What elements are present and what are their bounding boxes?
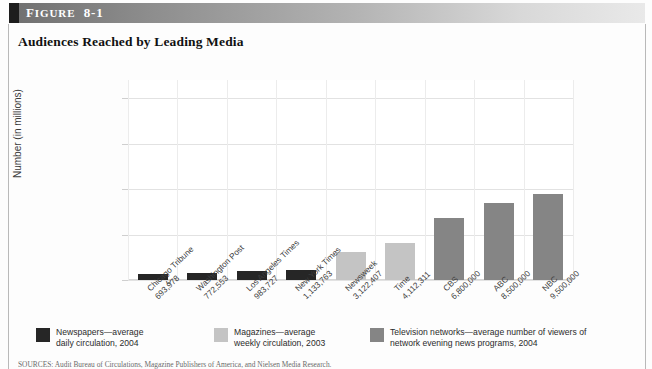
page-rule-left (8, 24, 9, 369)
gridline-horizontal (128, 144, 573, 145)
legend-swatch-newspapers (36, 328, 50, 342)
figure-label: FIGURE 8-1 (26, 5, 104, 21)
figure-header-cap (9, 3, 19, 23)
legend-label-television: Television networks—average number of vi… (390, 327, 586, 348)
gridline-vertical (573, 80, 574, 280)
gridline-vertical (276, 80, 277, 280)
figure-header-bar (9, 3, 645, 23)
legend-swatch-magazines (214, 328, 228, 342)
legend-item-newspapers: Newspapers—average daily circulation, 20… (36, 327, 143, 348)
chart: Number (in millions) 05101520 Chicago Tr… (18, 60, 628, 318)
legend-swatch-television (370, 328, 384, 342)
gridline-vertical (128, 80, 129, 280)
gridline-vertical (326, 80, 327, 280)
gridline-vertical (375, 80, 376, 280)
chart-legend: Newspapers—average daily circulation, 20… (18, 327, 630, 355)
gridline-vertical (425, 80, 426, 280)
figure-label-prefix: F (26, 5, 35, 20)
legend-label-magazines: Magazines—average weekly circulation, 20… (234, 327, 325, 348)
legend-item-magazines: Magazines—average weekly circulation, 20… (214, 327, 325, 348)
gridline-vertical (177, 80, 178, 280)
figure-number: 8-1 (84, 5, 104, 20)
gridline-horizontal (128, 98, 573, 99)
figure-label-rest: IGURE (35, 7, 76, 19)
y-axis-label: Number (in millions) (12, 89, 23, 178)
gridline-vertical (524, 80, 525, 280)
legend-item-television: Television networks—average number of vi… (370, 327, 586, 348)
page-title: Audiences Reached by Leading Media (18, 34, 244, 50)
figure-page: FIGURE 8-1 Audiences Reached by Leading … (0, 0, 652, 369)
gridline-vertical (227, 80, 228, 280)
source-note: SOURCES: Audit Bureau of Circulations, M… (18, 360, 638, 369)
legend-label-newspapers: Newspapers—average daily circulation, 20… (56, 327, 143, 348)
gridline-vertical (474, 80, 475, 280)
gridline-horizontal (128, 189, 573, 190)
page-rule-right (645, 24, 646, 369)
